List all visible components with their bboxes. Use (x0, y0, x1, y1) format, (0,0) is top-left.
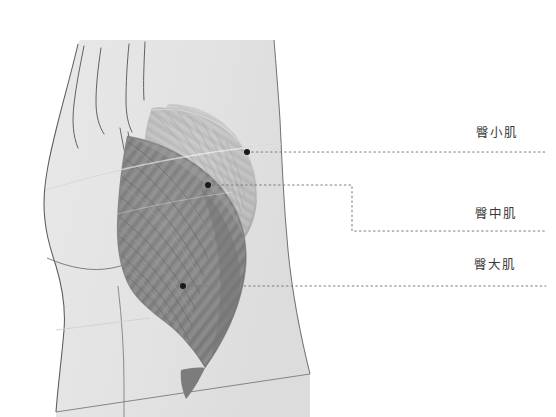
label-gluteus-medius: 臀中肌 (475, 203, 517, 222)
anatomy-illustration (0, 0, 556, 417)
marker-dot-gluteus-maximus (180, 283, 186, 289)
label-gluteus-minimus: 臀小肌 (476, 122, 518, 141)
marker-dot-gluteus-minimus (244, 149, 250, 155)
label-gluteus-maximus: 臀大肌 (474, 254, 516, 273)
marker-dot-gluteus-medius (205, 182, 211, 188)
